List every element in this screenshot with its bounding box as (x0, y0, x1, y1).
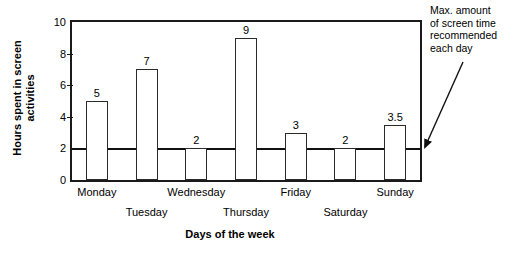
bar (235, 38, 257, 180)
y-tick-mark (67, 54, 73, 55)
y-tick-label: 0 (44, 175, 66, 186)
bar-value-label: 3.5 (387, 112, 402, 123)
y-tick-mark (67, 85, 73, 86)
bar-value-label: 5 (94, 88, 100, 99)
y-axis-title-line1: Hours spent in screen (11, 40, 24, 156)
y-axis-title-line2: activities (24, 40, 37, 156)
bar-value-label: 2 (193, 135, 199, 146)
y-tick-label: 4 (44, 111, 66, 122)
y-tick-label: 8 (44, 48, 66, 59)
annotation-line-3: recommended (430, 29, 526, 42)
bar (384, 125, 406, 180)
plot-area: 5729323.5 (70, 20, 422, 182)
y-tick-label: 2 (44, 143, 66, 154)
x-axis-title: Days of the week (0, 228, 460, 240)
y-tick-label: 6 (44, 80, 66, 91)
x-tick-label: Sunday (376, 186, 413, 198)
bar-value-label: 2 (342, 135, 348, 146)
x-tick-label: Tuesday (126, 206, 168, 218)
bar-value-label: 9 (243, 25, 249, 36)
bar (334, 148, 356, 180)
y-tick-mark (67, 117, 73, 118)
y-tick-label: 10 (44, 17, 66, 28)
bar (285, 133, 307, 180)
x-tick-label: Saturday (323, 206, 367, 218)
bar (185, 148, 207, 180)
bar-value-label: 3 (293, 120, 299, 131)
annotation-line-1: Max. amount (430, 4, 526, 17)
bar-value-label: 7 (144, 56, 150, 67)
x-tick-label: Friday (280, 186, 311, 198)
threshold-annotation: Max. amount of screen time recommended e… (430, 4, 526, 54)
y-axis-tick-labels: 0246810 (40, 0, 66, 253)
y-axis-title: Hours spent in screen activities (6, 18, 42, 178)
bar (86, 101, 108, 180)
bar (136, 69, 158, 180)
x-tick-label: Wednesday (167, 186, 225, 198)
chart-figure: Hours spent in screen activities 0246810… (0, 0, 528, 253)
x-tick-label: Thursday (223, 206, 269, 218)
annotation-line-4: each day (430, 42, 526, 55)
plot-surface: 5729323.5 (72, 22, 420, 180)
x-tick-label: Monday (77, 186, 116, 198)
annotation-line-2: of screen time (430, 17, 526, 30)
